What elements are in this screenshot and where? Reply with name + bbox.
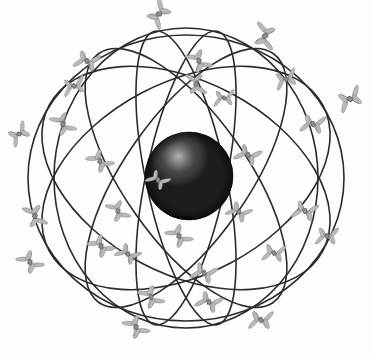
satellite-sat-01[interactable] [146, 0, 172, 31]
satellite-sat-15[interactable] [13, 248, 47, 277]
satellite-sat-03[interactable] [181, 45, 217, 77]
satellite-sat-17[interactable] [286, 194, 323, 228]
satellite-sat-19[interactable] [309, 219, 345, 254]
satellite-sat-20[interactable] [113, 242, 143, 266]
satellite-sat-16[interactable] [162, 221, 197, 251]
satellite-sat-10[interactable] [83, 147, 117, 175]
satellite-sat-27[interactable] [101, 195, 136, 226]
satellite-sat-12[interactable] [230, 140, 265, 171]
constellation-canvas [0, 0, 373, 357]
satellite-sat-25[interactable] [118, 311, 154, 342]
constellation-diagram: GPS Satellite Constellation Earth globe … [0, 0, 373, 357]
satellite-sat-08[interactable] [331, 79, 369, 120]
satellite-sat-18[interactable] [223, 199, 254, 225]
satellite-sat-07[interactable] [4, 117, 33, 150]
satellite-sat-13[interactable] [16, 198, 54, 234]
satellite-sat-09[interactable] [45, 108, 82, 141]
